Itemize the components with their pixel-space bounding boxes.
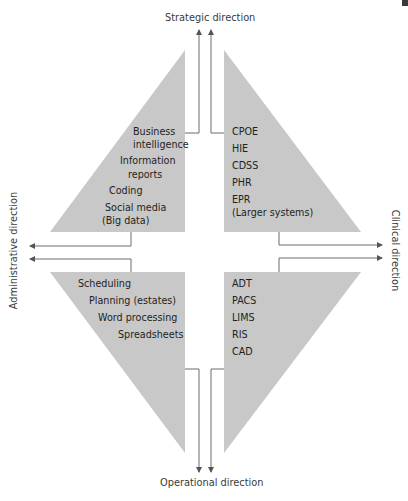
item-information: Information (120, 155, 176, 167)
strategic-arrow-right (211, 30, 224, 133)
item-business: Business (133, 126, 175, 138)
axis-label-strategic: Strategic direction (165, 12, 255, 23)
item-hie: HIE (232, 143, 248, 155)
clinical-arrow-bottom (279, 258, 382, 272)
item-cad: CAD (232, 346, 253, 358)
item-pacs: PACS (232, 295, 256, 307)
item-intelligence: intelligence (133, 139, 189, 151)
item-coding: Coding (109, 185, 143, 197)
administrative-arrow-top (30, 232, 131, 246)
item-phr: PHR (232, 177, 252, 189)
strategic-arrow-left (185, 30, 199, 133)
operational-arrow-left (185, 369, 199, 472)
item-word-processing: Word processing (98, 312, 177, 324)
corner-mark (402, 0, 408, 6)
item-planning-estates: Planning (estates) (89, 295, 176, 307)
axis-label-administrative: Administrative direction (8, 186, 19, 316)
clinical-arrow-top (279, 232, 382, 245)
item-big-data: (Big data) (102, 215, 149, 227)
axis-label-operational: Operational direction (160, 477, 264, 488)
item-social-media: Social media (105, 202, 166, 214)
item-larger-systems: (Larger systems) (232, 207, 313, 219)
operational-arrow-right (211, 369, 224, 472)
item-scheduling: Scheduling (78, 278, 131, 290)
item-ris: RIS (232, 329, 248, 341)
item-cpoe: CPOE (232, 126, 258, 138)
item-adt: ADT (232, 278, 252, 290)
item-lims: LIMS (232, 312, 255, 324)
item-cdss: CDSS (232, 160, 258, 172)
axis-label-clinical: Clinical direction (390, 196, 401, 306)
item-spreadsheets: Spreadsheets (118, 329, 183, 341)
diagram-canvas (0, 0, 408, 501)
item-reports: reports (128, 169, 162, 181)
administrative-arrow-bottom (30, 259, 131, 272)
item-epr: EPR (232, 194, 251, 206)
